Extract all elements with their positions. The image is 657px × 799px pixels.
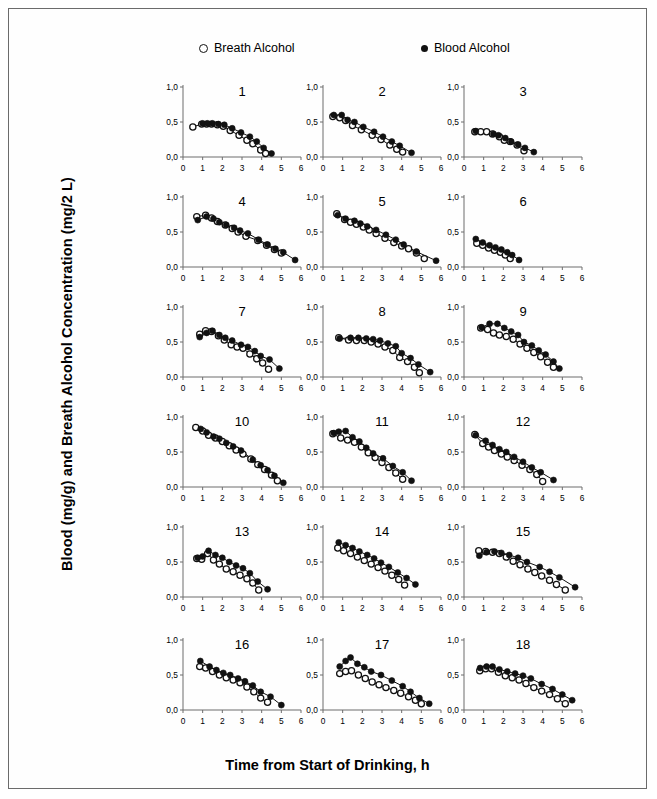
svg-text:3: 3 (240, 716, 245, 726)
svg-text:6: 6 (580, 383, 585, 393)
svg-text:5: 5 (378, 194, 385, 209)
subplot-panel-2: 0,00,51,001234562 (295, 73, 445, 185)
svg-text:1: 1 (340, 493, 345, 503)
subplot-panel-8: 0,00,51,001234568 (295, 293, 445, 405)
svg-text:6: 6 (580, 163, 585, 173)
svg-text:1: 1 (340, 383, 345, 393)
svg-text:0,0: 0,0 (306, 262, 318, 272)
svg-text:0,5: 0,5 (447, 670, 459, 680)
svg-text:0,5: 0,5 (306, 447, 318, 457)
subplot-panel-5: 0,00,51,001234565 (295, 183, 445, 295)
svg-text:4: 4 (399, 273, 404, 283)
svg-text:1,0: 1,0 (306, 635, 318, 645)
svg-text:0,5: 0,5 (166, 337, 178, 347)
svg-text:4: 4 (540, 493, 545, 503)
svg-text:1: 1 (481, 163, 486, 173)
svg-text:0: 0 (462, 493, 467, 503)
svg-text:4: 4 (540, 716, 545, 726)
svg-text:5: 5 (279, 273, 284, 283)
legend: Breath Alcohol Blood Alcohol (9, 41, 646, 65)
svg-text:5: 5 (279, 603, 284, 613)
svg-text:3: 3 (380, 716, 385, 726)
svg-text:0: 0 (321, 273, 326, 283)
svg-text:5: 5 (560, 163, 565, 173)
svg-text:0,5: 0,5 (166, 670, 178, 680)
svg-text:1,0: 1,0 (447, 192, 459, 202)
svg-text:2: 2 (220, 383, 225, 393)
svg-text:2: 2 (360, 716, 365, 726)
svg-text:3: 3 (521, 273, 526, 283)
svg-text:0,5: 0,5 (447, 227, 459, 237)
svg-text:6: 6 (580, 716, 585, 726)
svg-text:6: 6 (580, 493, 585, 503)
svg-text:4: 4 (540, 383, 545, 393)
svg-text:1,0: 1,0 (306, 412, 318, 422)
svg-text:1,0: 1,0 (166, 635, 178, 645)
svg-text:1,0: 1,0 (306, 302, 318, 312)
subplot-panel-10: 0,00,51,0012345610 (155, 403, 305, 515)
legend-label-blood-alcohol: Blood Alcohol (434, 41, 510, 55)
svg-text:0,5: 0,5 (166, 117, 178, 127)
svg-text:3: 3 (519, 84, 526, 99)
filled-circle-icon (421, 45, 428, 52)
subplot-panel-12: 0,00,51,0012345612 (436, 403, 586, 515)
svg-text:4: 4 (259, 383, 264, 393)
svg-text:6: 6 (519, 194, 526, 209)
svg-text:4: 4 (238, 194, 245, 209)
svg-text:6: 6 (580, 603, 585, 613)
svg-text:3: 3 (380, 383, 385, 393)
svg-text:0,0: 0,0 (447, 372, 459, 382)
svg-text:0,0: 0,0 (166, 152, 178, 162)
svg-text:1,0: 1,0 (306, 82, 318, 92)
svg-text:0: 0 (181, 383, 186, 393)
svg-text:1: 1 (481, 493, 486, 503)
svg-text:1: 1 (481, 716, 486, 726)
subplot-panel-9: 0,00,51,001234569 (436, 293, 586, 405)
svg-text:1: 1 (200, 493, 205, 503)
svg-text:1,0: 1,0 (166, 82, 178, 92)
svg-text:1,0: 1,0 (306, 522, 318, 532)
svg-text:0: 0 (321, 383, 326, 393)
svg-text:5: 5 (279, 493, 284, 503)
svg-text:10: 10 (235, 414, 249, 429)
svg-text:2: 2 (360, 383, 365, 393)
svg-text:4: 4 (259, 493, 264, 503)
svg-text:3: 3 (240, 273, 245, 283)
svg-text:0,5: 0,5 (306, 117, 318, 127)
svg-text:17: 17 (375, 637, 389, 652)
x-axis-title: Time from Start of Drinking, h (9, 757, 646, 773)
svg-text:15: 15 (516, 524, 530, 539)
svg-text:0,5: 0,5 (447, 337, 459, 347)
svg-text:2: 2 (378, 84, 385, 99)
svg-text:13: 13 (235, 524, 249, 539)
subplot-panel-14: 0,00,51,0012345614 (295, 513, 445, 625)
svg-text:3: 3 (521, 383, 526, 393)
svg-text:9: 9 (519, 304, 526, 319)
svg-text:6: 6 (580, 273, 585, 283)
svg-text:1,0: 1,0 (447, 635, 459, 645)
legend-entry-blood-alcohol: Blood Alcohol (421, 41, 510, 55)
svg-text:5: 5 (560, 383, 565, 393)
svg-text:3: 3 (380, 603, 385, 613)
svg-text:0,0: 0,0 (166, 262, 178, 272)
svg-text:2: 2 (501, 716, 506, 726)
svg-text:1: 1 (200, 163, 205, 173)
svg-text:0,5: 0,5 (447, 117, 459, 127)
svg-text:1,0: 1,0 (447, 82, 459, 92)
svg-text:2: 2 (220, 163, 225, 173)
svg-text:16: 16 (235, 637, 249, 652)
svg-text:0: 0 (462, 603, 467, 613)
svg-text:2: 2 (360, 493, 365, 503)
svg-text:4: 4 (399, 716, 404, 726)
svg-text:5: 5 (279, 716, 284, 726)
svg-text:2: 2 (220, 273, 225, 283)
svg-text:2: 2 (220, 716, 225, 726)
svg-text:0: 0 (462, 716, 467, 726)
svg-text:4: 4 (540, 163, 545, 173)
subplot-panel-15: 0,00,51,0012345615 (436, 513, 586, 625)
subplot-panel-11: 0,00,51,0012345611 (295, 403, 445, 515)
svg-text:1,0: 1,0 (447, 302, 459, 312)
svg-text:0,0: 0,0 (447, 262, 459, 272)
svg-text:5: 5 (419, 163, 424, 173)
subplot-panel-18: 0,00,51,0012345618 (436, 626, 586, 738)
